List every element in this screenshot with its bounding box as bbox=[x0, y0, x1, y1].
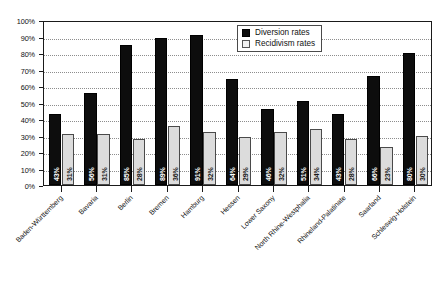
bar-value-label: 91% bbox=[194, 168, 201, 181]
y-axis-tick-label: 80% bbox=[0, 50, 35, 59]
bar-value-label: 64% bbox=[229, 168, 236, 181]
bar-value-label: 30% bbox=[419, 168, 426, 181]
bar-recidivism: 34% bbox=[310, 129, 322, 185]
bar-recidivism: 30% bbox=[416, 136, 428, 186]
x-axis-labels: Baden-WürttembergBavariaBerlinBremenHamb… bbox=[0, 190, 443, 285]
bar-diversion: 56% bbox=[84, 93, 96, 185]
bar-recidivism: 31% bbox=[62, 134, 74, 185]
y-axis-tick-label: 100% bbox=[0, 17, 35, 26]
y-axis-tick-label: 10% bbox=[0, 166, 35, 175]
y-axis-tick-label: 20% bbox=[0, 149, 35, 158]
legend-item-diversion: Diversion rates bbox=[242, 29, 315, 37]
legend-label-recidivism: Recidivism rates bbox=[255, 40, 315, 48]
bar-recidivism: 28% bbox=[133, 139, 145, 185]
legend-item-recidivism: Recidivism rates bbox=[242, 40, 315, 48]
bar-value-label: 85% bbox=[123, 168, 130, 181]
bar-recidivism: 32% bbox=[274, 132, 286, 185]
bar-recidivism: 31% bbox=[97, 134, 109, 185]
bar-diversion: 66% bbox=[367, 76, 379, 185]
bar-value-label: 36% bbox=[172, 168, 179, 181]
bar-recidivism: 32% bbox=[203, 132, 215, 185]
bar-value-label: 28% bbox=[136, 168, 143, 181]
bar-value-label: 31% bbox=[101, 168, 108, 181]
bar-diversion: 51% bbox=[297, 101, 309, 185]
bar-diversion: 91% bbox=[190, 35, 202, 185]
bar-value-label: 80% bbox=[406, 168, 413, 181]
bar-diversion: 43% bbox=[49, 114, 61, 185]
y-axis: 0%10%20%30%40%50%60%70%80%90%100% bbox=[0, 21, 39, 186]
bar-value-label: 43% bbox=[53, 168, 60, 181]
bar-value-label: 51% bbox=[300, 168, 307, 181]
bar-recidivism: 36% bbox=[168, 126, 180, 185]
bar-value-label: 46% bbox=[265, 168, 272, 181]
x-axis-category-label: Bremen bbox=[147, 194, 170, 217]
y-axis-tick-label: 60% bbox=[0, 83, 35, 92]
bar-diversion: 89% bbox=[155, 38, 167, 185]
x-axis-category-label: Berlin bbox=[117, 194, 135, 212]
bar-recidivism: 23% bbox=[380, 147, 392, 185]
bar-value-label: 32% bbox=[207, 168, 214, 181]
bar-value-label: 34% bbox=[313, 168, 320, 181]
bar-value-label: 29% bbox=[242, 168, 249, 181]
y-axis-tick-label: 70% bbox=[0, 67, 35, 76]
bar-value-label: 28% bbox=[348, 168, 355, 181]
legend-swatch-recidivism-icon bbox=[242, 40, 250, 48]
legend-swatch-diversion-icon bbox=[242, 29, 250, 37]
bar-chart: 0%10%20%30%40%50%60%70%80%90%100% 43%31%… bbox=[0, 0, 443, 285]
bar-diversion: 46% bbox=[261, 109, 273, 185]
bar-diversion: 64% bbox=[226, 79, 238, 185]
bar-diversion: 80% bbox=[403, 53, 415, 185]
bar-value-label: 31% bbox=[66, 168, 73, 181]
y-axis-tick-label: 40% bbox=[0, 116, 35, 125]
y-axis-tick-label: 90% bbox=[0, 34, 35, 43]
bar-value-label: 66% bbox=[371, 168, 378, 181]
x-axis-category-label: Lower Saxony bbox=[239, 194, 276, 231]
bar-value-label: 23% bbox=[384, 168, 391, 181]
bar-value-label: 56% bbox=[88, 168, 95, 181]
x-axis-category-label: Baden-Württemberg bbox=[14, 194, 64, 244]
x-axis-category-label: Hamburg bbox=[180, 194, 206, 220]
bar-recidivism: 29% bbox=[239, 137, 251, 185]
chart-legend: Diversion rates Recidivism rates bbox=[237, 25, 322, 52]
bar-recidivism: 28% bbox=[345, 139, 357, 185]
x-axis-category-label: Hessen bbox=[219, 194, 241, 216]
bar-value-label: 43% bbox=[335, 168, 342, 181]
plot-area: 43%31%56%31%85%28%89%36%91%32%64%29%46%3… bbox=[43, 21, 432, 186]
y-axis-tick-label: 30% bbox=[0, 133, 35, 142]
x-axis-category-label: Saarland bbox=[357, 194, 382, 219]
bar-diversion: 85% bbox=[120, 45, 132, 185]
bar-diversion: 43% bbox=[332, 114, 344, 185]
y-axis-tick-label: 50% bbox=[0, 100, 35, 109]
x-axis-category-label: Bavaria bbox=[77, 194, 99, 216]
legend-label-diversion: Diversion rates bbox=[255, 29, 310, 37]
bar-value-label: 32% bbox=[278, 168, 285, 181]
bar-value-label: 89% bbox=[159, 168, 166, 181]
